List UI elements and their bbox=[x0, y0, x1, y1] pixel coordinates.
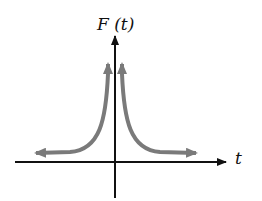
right-curve bbox=[122, 74, 196, 153]
left-curve bbox=[36, 74, 108, 153]
x-axis-label: t bbox=[235, 148, 242, 168]
y-axis-label: F (t) bbox=[97, 14, 134, 34]
